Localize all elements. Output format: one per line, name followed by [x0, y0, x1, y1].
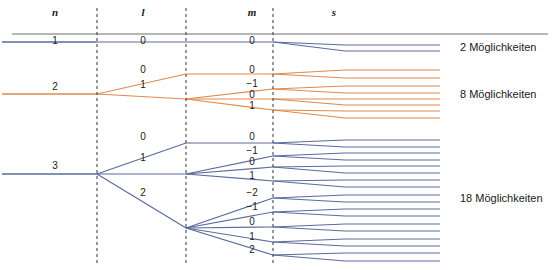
l-value-n2-l1: 1 [140, 79, 146, 90]
m-branch-n3-l1-m-1 [186, 156, 273, 174]
s-branch-n3-l1-m1-s-1/2 [273, 181, 440, 187]
column-header-s: s [332, 6, 336, 18]
m-branch-n2-l1-m1 [186, 99, 273, 110]
s-branch-n3-l2-m2-s+1/2 [273, 253, 440, 255]
possibilities-count-n2: 8 Möglichkeiten [460, 88, 536, 100]
m-branch-n3-l2-m-1 [186, 212, 273, 228]
l-value-n2-l0: 0 [140, 64, 146, 75]
l-value-n3-l0: 0 [140, 131, 146, 142]
s-branch-n3-l1-m0-s+1/2 [273, 166, 440, 167]
s-branch-n2-l1-m-1-s-1/2 [273, 89, 440, 93]
m-value-n3-l0-m0: 0 [249, 131, 255, 142]
n-value-3: 3 [52, 160, 58, 171]
m-value-n3-l2-m-2: −2 [246, 187, 257, 198]
column-header-n: n [52, 6, 58, 18]
m-value-n3-l2-m1: 1 [249, 231, 255, 242]
m-branch-n3-l1-m0 [186, 167, 273, 174]
s-branch-n2-l1-m1-s+1/2 [273, 110, 440, 111]
s-branch-n3-l2-m-1-s-1/2 [273, 212, 440, 216]
s-branch-n3-l0-m0-s+1/2 [273, 140, 440, 143]
s-branch-n3-l2-m0-s-1/2 [273, 227, 440, 231]
s-branch-n2-l0-m0-s+1/2 [273, 70, 440, 74]
m-value-n1-l0-m0: 0 [249, 35, 255, 46]
l-branch-n3-l2 [97, 174, 186, 228]
n-value-1: 1 [52, 35, 58, 46]
s-branch-n2-l1-m0-s-1/2 [273, 99, 440, 105]
l-value-n1-l0: 0 [140, 35, 146, 46]
m-value-n2-l0-m0: 0 [249, 64, 255, 75]
n-value-2: 2 [52, 81, 58, 92]
m-value-n2-l1-m0: 0 [249, 89, 255, 100]
m-branch-n3-l2-m0 [186, 227, 273, 228]
s-branch-n3-l1-m1-s+1/2 [273, 180, 440, 181]
s-branch-n3-l1-m-1-s+1/2 [273, 153, 440, 156]
possibilities-count-n1: 2 Möglichkeiten [460, 41, 536, 53]
s-branch-n3-l2-m1-s-1/2 [273, 242, 440, 246]
m-branch-n3-l2-m2 [186, 228, 273, 255]
s-branch-n3-l2-m-2-s-1/2 [273, 198, 440, 202]
s-branch-n3-l2-m1-s+1/2 [273, 239, 440, 242]
m-value-n2-l1-m1: 1 [249, 100, 255, 111]
s-branch-n2-l1-m-1-s+1/2 [273, 86, 440, 89]
s-branch-n3-l2-m-1-s+1/2 [273, 209, 440, 212]
column-header-m: m [248, 6, 257, 18]
l-branch-n2-l1 [97, 94, 186, 99]
quantum-number-splitting-diagram: nlms1002 Möglichkeiten2001−1018 Möglichk… [0, 0, 558, 270]
m-value-n3-l1-m0: 0 [249, 156, 255, 167]
l-value-n3-l1: 1 [140, 152, 146, 163]
l-value-n3-l2: 2 [140, 187, 146, 198]
s-branch-n3-l0-m0-s-1/2 [273, 143, 440, 147]
s-branch-n3-l2-m2-s-1/2 [273, 255, 440, 261]
m-value-n3-l1-m1: 1 [249, 170, 255, 181]
m-branch-n2-l1-m-1 [186, 89, 273, 99]
m-value-n3-l2-m2: 2 [249, 244, 255, 255]
s-branch-n3-l1-m-1-s-1/2 [273, 156, 440, 160]
s-branch-n3-l2-m-2-s+1/2 [273, 195, 440, 198]
s-branch-n3-l1-m0-s-1/2 [273, 167, 440, 173]
m-value-n3-l2-m0: 0 [249, 216, 255, 227]
column-header-l: l [141, 6, 144, 18]
m-value-n3-l2-m-1: −1 [246, 201, 257, 212]
m-branch-n3-l2-m1 [186, 228, 273, 242]
m-branch-n3-l1-m1 [186, 174, 273, 181]
possibilities-count-n3: 18 Möglichkeiten [460, 192, 543, 204]
m-value-n3-l1-m-1: −1 [246, 145, 257, 156]
s-branch-n2-l0-m0-s-1/2 [273, 74, 440, 78]
m-branch-n3-l2-m-2 [186, 198, 273, 228]
m-value-n2-l1-m-1: −1 [246, 78, 257, 89]
s-branch-n3-l2-m0-s+1/2 [273, 224, 440, 227]
